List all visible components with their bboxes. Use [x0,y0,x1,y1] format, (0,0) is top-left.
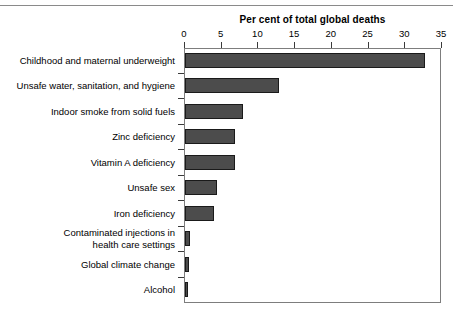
bar-alcohol [185,282,188,297]
category-label-zinc-deficiency: Zinc deficiency [112,131,175,143]
y-tick-mark-8 [178,251,184,252]
category-label-contaminated-injections: Contaminated injections in health care s… [64,227,175,250]
bar-global-climate-change [185,257,189,272]
bar-contaminated-injections [185,231,190,246]
category-label-unsafe-water: Unsafe water, sanitation, and hygiene [17,80,175,92]
x-tick-label-30: 30 [392,28,416,39]
category-label-iron-deficiency: Iron deficiency [114,208,175,220]
y-tick-mark-9 [178,277,184,278]
y-tick-mark-1 [178,73,184,74]
category-label-childhood-underweight: Childhood and maternal underweight [20,55,175,67]
x-tick-label-5: 5 [209,28,233,39]
bar-zinc-deficiency [185,129,235,144]
y-tick-mark-6 [178,200,184,201]
y-tick-mark-5 [178,175,184,176]
bar-iron-deficiency [185,206,214,221]
x-tick-label-0: 0 [172,28,196,39]
x-tick-label-25: 25 [356,28,380,39]
category-label-global-climate-change: Global climate change [81,259,175,271]
x-tick-label-10: 10 [245,28,269,39]
category-label-vitamin-a-deficiency: Vitamin A deficiency [91,157,175,169]
y-tick-mark-4 [178,149,184,150]
x-tick-label-35: 35 [429,28,453,39]
bar-chart: Per cent of total global deaths 0 5 10 1… [0,0,453,319]
bar-vitamin-a-deficiency [185,155,235,170]
y-tick-mark-7 [178,226,184,227]
category-label-indoor-smoke: Indoor smoke from solid fuels [51,106,175,118]
bar-indoor-smoke [185,104,243,119]
y-tick-mark-2 [178,98,184,99]
category-label-unsafe-sex: Unsafe sex [127,182,175,194]
bar-unsafe-sex [185,180,217,195]
bar-unsafe-water [185,78,279,93]
x-tick-label-15: 15 [282,28,306,39]
y-tick-mark-3 [178,124,184,125]
x-axis-title: Per cent of total global deaths [184,14,441,25]
category-label-alcohol: Alcohol [144,284,175,296]
x-tick-label-20: 20 [319,28,343,39]
bar-childhood-underweight [185,53,425,68]
x-tick-mark-35 [441,42,442,48]
